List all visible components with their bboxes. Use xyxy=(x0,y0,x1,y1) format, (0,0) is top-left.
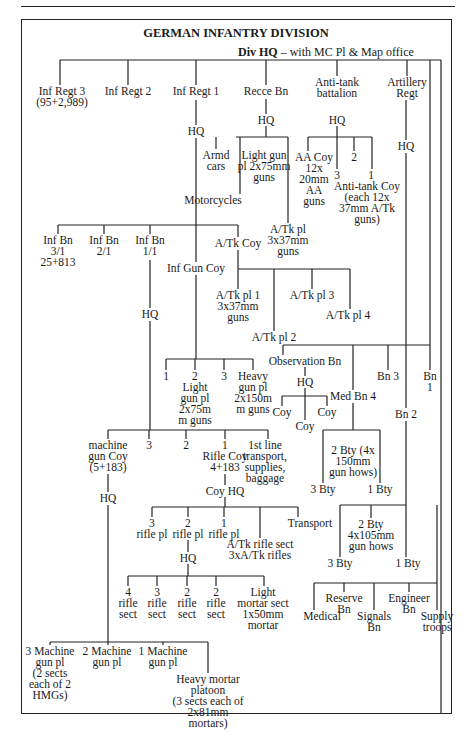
node-artillery-regt: Artillery Regt xyxy=(387,77,427,99)
node-lt-1-bty: 1 Bty xyxy=(395,558,420,569)
node-mg-coy: machine gun Coy (5+183) xyxy=(88,440,127,473)
node-rifle-sect-4: 4 rifle sect xyxy=(118,587,137,620)
node-rifle-pl-3: 3 rifle pl xyxy=(137,518,168,540)
node-rifle-coy: 1 Rifle Coy 4+183 xyxy=(202,440,247,473)
node-medical: Medical xyxy=(303,611,341,622)
node-mg-pl-2: 2 Machine gun pl xyxy=(83,646,132,668)
node-arty-hq: HQ xyxy=(398,141,415,152)
node-rifle-sect-3: 3 rifle sect xyxy=(147,587,166,620)
node-mg-pl-1: 1 Machine gun pl xyxy=(139,646,188,668)
node-rifle-pl-2: 2 rifle pl xyxy=(173,518,204,540)
div-hq-bold: Div HQ xyxy=(238,45,278,59)
node-anti-tank-battalion: Anti-tank battalion xyxy=(315,77,359,99)
node-regt-at-coy: A/Tk Coy xyxy=(215,238,261,249)
node-rifle-pl-1: 1 rifle pl xyxy=(209,518,240,540)
node-lt-3-bty: 3 Bty xyxy=(327,558,352,569)
node-at-coy-2: 2 xyxy=(351,152,357,163)
node-inf-bn-1-1: Inf Bn 1/1 xyxy=(135,235,165,257)
node-med-3-bty: 3 Bty xyxy=(310,484,335,495)
node-motorcycles: Motorcycles xyxy=(184,195,241,206)
node-inf-bn-2-1: Inf Bn 2/1 xyxy=(89,235,119,257)
node-light-gun-pl: Light gun pl 2x75mm guns xyxy=(238,150,291,183)
node-gun-pl-1: 1 xyxy=(163,371,169,382)
node-at-pl-1: A/Tk pl 1 3x37mm guns xyxy=(216,290,261,323)
node-observation-bn: Observation Bn xyxy=(269,356,342,367)
node-rifle-sect-2a: 2 rifle sect xyxy=(177,587,196,620)
node-at-pl-3: A/Tk pl 3 xyxy=(290,290,335,301)
node-inf-gun-coy: Inf Gun Coy xyxy=(167,263,225,274)
node-bn-2: Bn 2 xyxy=(395,409,417,420)
node-at-rifle-sect: A/Tk rifle sect 3xA/Tk rifles xyxy=(226,539,293,561)
node-obs-coy-mid: Coy xyxy=(295,421,314,432)
node-bn-hq: HQ xyxy=(142,309,159,320)
node-recce-bn: Recce Bn xyxy=(244,86,288,97)
node-lt-2-bty: 2 Bty 4x105mm gun hows xyxy=(348,519,395,552)
node-rifle-sect-2b: 2 rifle sect xyxy=(206,587,225,620)
node-inf-regt-1-hq: HQ xyxy=(188,126,205,137)
node-heavy-gun-pl: Heavy gun pl 2x150m m guns xyxy=(234,371,272,415)
div-hq-detail: – with MC Pl & Map office xyxy=(278,45,414,59)
node-bn-coy-2: 2 xyxy=(183,440,189,451)
node-bn-1: Bn 1 xyxy=(423,371,436,393)
diagram-title: GERMAN INFANTRY DIVISION xyxy=(143,26,329,41)
node-obs-coy-left: Coy xyxy=(272,407,291,418)
node-recce-hq: HQ xyxy=(258,115,275,126)
node-inf-regt-3: Inf Regt 3 (95+2,989) xyxy=(36,86,88,108)
node-at-pl-4: A/Tk pl 4 xyxy=(326,310,371,321)
node-mg-coy-hq: HQ xyxy=(100,493,117,504)
node-aa-coy: AA Coy 12x 20mm AA guns xyxy=(295,152,333,207)
node-med-1-bty: 1 Bty xyxy=(367,484,392,495)
node-gun-pl-2: 2 Light gun pl 2x75m m guns xyxy=(178,371,212,426)
node-anti-tank-coy: Anti-tank Coy (each 12x 37mm A/Tk guns) xyxy=(334,181,400,225)
node-med-2-bty: 2 Bty (4x 150mm gun hows) xyxy=(329,445,377,478)
node-inf-regt-2: Inf Regt 2 xyxy=(105,86,152,97)
node-obs-coy-right: Coy xyxy=(317,407,336,418)
node-mg-pl-3: 3 Machine gun pl (2 sects each of 2 HMGs… xyxy=(26,646,75,701)
node-heavy-mortar-pl: Heavy mortar platoon (3 sects each of 2x… xyxy=(172,674,243,729)
node-bn-coy-3: 3 xyxy=(146,440,152,451)
node-first-line-transport: 1st line transport, supplies, baggage xyxy=(243,440,287,484)
node-at-pl-2: A/Tk pl 2 xyxy=(252,332,297,343)
node-med-bn-4: Med Bn 4 xyxy=(330,391,376,402)
node-obs-hq: HQ xyxy=(297,377,314,388)
node-transport: Transport xyxy=(288,518,332,529)
node-supply-troops: Supply troops xyxy=(421,611,454,633)
node-light-mortar-sect: Light mortar sect 1x50mm mortar xyxy=(237,587,288,631)
node-at-bn-hq: HQ xyxy=(329,115,346,126)
node-signals-bn: Signals Bn xyxy=(357,611,391,633)
node-inf-regt-1: Inf Regt 1 xyxy=(173,86,220,97)
node-recce-at-pl: A/Tk pl 3x37mm guns xyxy=(268,224,309,257)
node-coy-hq: Coy HQ xyxy=(206,486,245,497)
node-inf-bn-3-1: Inf Bn 3/1 25+813 xyxy=(40,235,75,268)
node-pl-hq: HQ xyxy=(180,553,197,564)
node-gun-pl-3: 3 xyxy=(221,371,227,382)
div-hq-label: Div HQ – with MC Pl & Map office xyxy=(238,45,414,60)
node-bn-3: Bn 3 xyxy=(377,371,399,382)
node-armd-cars: Armd cars xyxy=(203,150,230,172)
